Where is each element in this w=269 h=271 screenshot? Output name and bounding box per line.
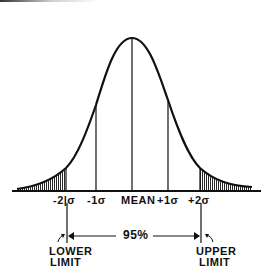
label-mean: MEAN [121, 195, 155, 206]
bell-curve [17, 38, 252, 189]
label-minus-2-sigma: -2|σ [53, 195, 75, 206]
label-lower-limit: LIMIT [50, 257, 81, 268]
upper-tail-shading [200, 168, 252, 191]
arrowhead-right-icon [194, 232, 200, 240]
label-95-percent: 95% [123, 230, 149, 241]
label-minus-1-sigma: -1σ [87, 195, 106, 206]
label-plus-1-sigma: +1σ [157, 195, 179, 206]
label-plus-2-sigma: +2σ [188, 195, 210, 206]
label-upper-limit: LIMIT [199, 257, 230, 268]
arrowhead-left-icon [68, 232, 74, 240]
